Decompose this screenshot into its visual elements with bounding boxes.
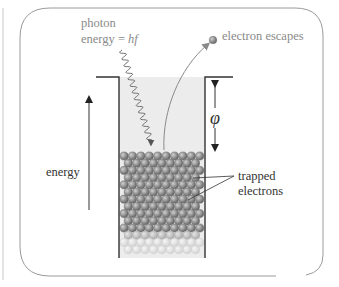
electron-icon [158,159,166,167]
electron-icon [162,181,170,189]
electron-icon [124,246,132,254]
electron-icon [141,246,149,254]
electron-icon [141,174,149,182]
electron-icon [128,195,136,203]
electron-icon [162,152,170,160]
electron-icon [128,152,136,160]
electron-icon [120,224,128,232]
electron-icon [170,195,178,203]
electron-icon [145,238,153,246]
electron-icon [170,152,178,160]
electron-icon [179,210,187,218]
electron-icon [170,224,178,232]
electron-icon [137,195,145,203]
electron-icon [175,246,183,254]
electron-icon [145,224,153,232]
electron-icon [158,231,166,239]
electron-icon [162,238,170,246]
electron-icon [137,210,145,218]
electron-icon [191,202,199,210]
electron-icon [170,181,178,189]
photon-energy-var: hf [128,32,138,46]
electron-icon [141,217,149,225]
electron-icon [179,181,187,189]
electron-icon [120,166,128,174]
electron-icon [124,231,132,239]
electron-icon [149,159,157,167]
electron-icon [154,152,162,160]
electron-icon [133,217,141,225]
electron-icon [128,166,136,174]
electron-icon [128,210,136,218]
electron-icon [124,159,132,167]
electron-icon [183,188,191,196]
electron-icon [154,224,162,232]
electron-escapes-label: electron escapes [222,30,304,43]
electron-icon [145,166,153,174]
electron-icon [133,231,141,239]
electron-icon [124,217,132,225]
electron-icon [196,152,204,160]
photon-energy-label: energy = hf [81,33,138,46]
electron-icon [191,159,199,167]
electron-icon [120,238,128,246]
electron-icon [175,159,183,167]
electron-icon [183,217,191,225]
electron-icon [179,238,187,246]
electron-icon [187,210,195,218]
electron-icon [196,195,204,203]
electron-icon [137,166,145,174]
electron-icon [166,217,174,225]
electron-icon [175,217,183,225]
electron-icon [162,224,170,232]
electron-icon [166,246,174,254]
electron-icon [158,202,166,210]
electron-icon [166,231,174,239]
electron-icon [149,231,157,239]
electron-icon [137,152,145,160]
electron-icon [183,202,191,210]
electron-icon [196,224,204,232]
electron-icon [191,246,199,254]
electron-icon [183,231,191,239]
electron-icon [133,174,141,182]
electron-icon [145,152,153,160]
electron-icon [154,166,162,174]
electron-icon [158,246,166,254]
electron-icon [196,166,204,174]
electron-icon [166,202,174,210]
electron-icon [124,174,132,182]
electron-icon [145,210,153,218]
electron-icon [149,246,157,254]
electron-icon [162,210,170,218]
electron-icon [196,181,204,189]
electron-icon [141,188,149,196]
electron-icon [133,188,141,196]
electron-icon [141,159,149,167]
electron-icon [162,166,170,174]
electron-icon [149,188,157,196]
electron-icon [166,188,174,196]
electron-icon [166,159,174,167]
electron-icon [145,195,153,203]
electron-icon [145,181,153,189]
electron-icon [158,188,166,196]
electron-icon [187,238,195,246]
electron-icon [158,217,166,225]
electron-icon [166,174,174,182]
photon-label-line1: photon [81,16,116,30]
electron-icon [187,181,195,189]
electron-icon [187,224,195,232]
electron-icon [141,231,149,239]
electron-icon [120,152,128,160]
electron-icon [191,217,199,225]
electron-icon [191,231,199,239]
electron-icon [128,224,136,232]
trapped-electrons-label-line1: trapped [238,170,275,183]
electron-icon [179,224,187,232]
electron-icon [175,202,183,210]
electron-icon [158,174,166,182]
electron-icon [179,166,187,174]
electron-icon [183,159,191,167]
electron-icon [149,217,157,225]
